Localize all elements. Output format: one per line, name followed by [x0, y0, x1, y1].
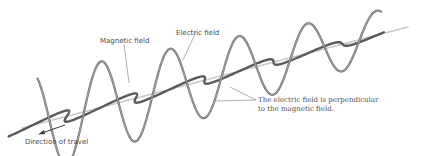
perpendicular-leader-bottom: [215, 100, 256, 101]
electric-field-label: Electric field: [176, 29, 219, 37]
magnetic-field-label: Magnetic field: [100, 37, 149, 45]
magnetic-field-leader: [124, 44, 129, 83]
perpendicular-label-line1: The electric field is perpendicular: [258, 96, 378, 105]
perpendicular-label-line2: to the magnetic field.: [258, 105, 334, 114]
perpendicular-leader-top: [230, 87, 256, 100]
direction-of-travel-label: Direction of travel: [25, 138, 88, 146]
em-wave-diagram: [0, 0, 421, 156]
propagation-axis: [22, 27, 408, 128]
